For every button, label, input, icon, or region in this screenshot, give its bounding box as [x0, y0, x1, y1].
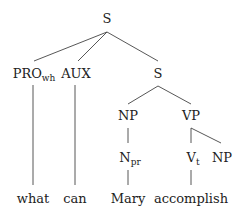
node-pro-wh: PROwh: [13, 67, 56, 80]
node-s-inner: S: [154, 67, 163, 80]
node-label: NP: [118, 108, 138, 123]
edge-root-pro: [34, 32, 107, 61]
node-v-t: Vt: [186, 151, 199, 164]
leaf-mary: Mary: [111, 192, 146, 205]
node-np-subject: NP: [118, 109, 138, 122]
node-root-s: S: [103, 12, 112, 25]
node-aux: AUX: [61, 67, 91, 80]
leaf-word: what: [17, 191, 49, 206]
node-subscript: wh: [42, 73, 56, 83]
syntax-tree: S PROwh AUX S NP VP Npr Vt NP what can M…: [0, 0, 241, 216]
leaf-what: what: [17, 192, 49, 205]
node-vp: VP: [182, 109, 200, 122]
node-label: S: [103, 11, 112, 26]
node-label: VP: [182, 108, 200, 123]
node-subscript: t: [196, 157, 200, 167]
node-subscript: pr: [131, 157, 141, 167]
node-np-object: NP: [212, 151, 232, 164]
leaf-accomplish: accomplish: [154, 192, 228, 205]
node-label: N: [119, 150, 130, 165]
edge-root-s: [107, 32, 158, 61]
node-n-pr: Npr: [119, 151, 140, 164]
node-label: AUX: [61, 66, 91, 81]
leaf-word: accomplish: [154, 191, 228, 206]
edge-s-vp: [158, 86, 191, 104]
edge-s-np: [128, 86, 158, 104]
leaf-can: can: [63, 192, 86, 205]
node-label: PRO: [13, 66, 42, 81]
edge-root-aux: [78, 32, 107, 61]
node-label: V: [186, 150, 195, 165]
node-label: NP: [212, 150, 232, 165]
leaf-word: Mary: [111, 191, 146, 206]
node-label: S: [154, 66, 163, 81]
edge-vp-np: [191, 128, 221, 143]
leaf-word: can: [63, 191, 86, 206]
